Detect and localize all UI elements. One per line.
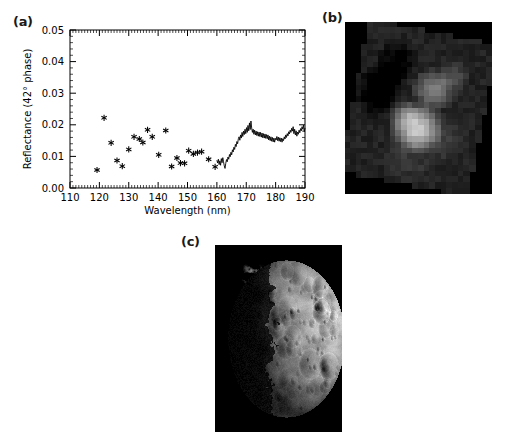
data-point-asterisk (108, 140, 113, 146)
data-point-asterisk (163, 127, 168, 133)
y-tick-label: 0.05 (42, 25, 64, 36)
x-tick-label: 110 (60, 192, 79, 203)
y-tick-label: 0.02 (42, 119, 64, 130)
panel-a-label: (a) (13, 14, 33, 29)
y-axis-label: Reflectance (42° phase) (22, 49, 33, 170)
uv-mosaic-image (345, 22, 492, 194)
x-tick-label: 170 (237, 192, 256, 203)
data-point-asterisk (150, 134, 155, 140)
moon-surface-image (215, 245, 342, 432)
panel-b-uv-mosaic (345, 22, 492, 194)
panel-a-chart: 1101201301401501601701801900.000.010.020… (0, 0, 320, 218)
data-point-asterisk (94, 167, 99, 173)
y-tick-label: 0.03 (42, 88, 64, 99)
data-point-asterisk (186, 148, 191, 154)
data-point-asterisk (169, 163, 174, 169)
data-point-asterisk (145, 127, 150, 133)
data-point-asterisk (156, 152, 161, 158)
data-point-asterisk (212, 164, 217, 170)
reflectance-spectrum-plot: 1101201301401501601701801900.000.010.020… (0, 0, 320, 218)
plot-frame (70, 30, 305, 188)
x-tick-label: 190 (295, 192, 314, 203)
x-tick-label: 150 (178, 192, 197, 203)
y-tick-label: 0.04 (42, 56, 64, 67)
y-tick-label: 0.01 (42, 151, 64, 162)
data-point-asterisk (126, 146, 131, 152)
panel-c-moon-image (215, 245, 342, 432)
x-tick-label: 130 (119, 192, 138, 203)
data-point-asterisk (131, 134, 136, 140)
x-tick-label: 140 (149, 192, 168, 203)
data-point-asterisk (101, 115, 106, 121)
data-point-asterisk (206, 156, 211, 162)
x-tick-label: 120 (90, 192, 109, 203)
scatter-series (94, 115, 217, 173)
figure-caption (0, 438, 512, 447)
panel-b-label: (b) (322, 10, 342, 25)
x-tick-label: 160 (207, 192, 226, 203)
data-point-asterisk (120, 163, 125, 169)
x-axis-label: Wavelength (nm) (144, 205, 230, 216)
x-tick-label: 180 (266, 192, 285, 203)
data-point-asterisk (114, 157, 119, 163)
panel-c-label: (c) (181, 234, 200, 249)
y-tick-label: 0.00 (42, 183, 64, 194)
data-point-asterisk (174, 155, 179, 161)
spectrum-line (217, 121, 305, 168)
